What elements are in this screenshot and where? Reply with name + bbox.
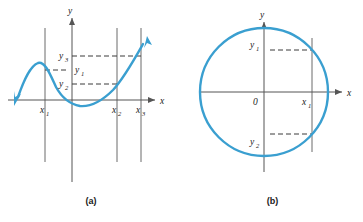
panel-a: y x x 1 x 2 x 3 y 3 y 1 [0,0,182,222]
svg-text:1: 1 [256,45,259,52]
svg-text:y: y [58,51,64,61]
curve-end-arrow-icon [144,36,152,48]
y-tick-label-y1: y 1 [74,65,84,77]
y-tick-label-y3: y 3 [58,51,69,63]
panel-a-x-axis-label: x [159,96,165,106]
svg-text:3: 3 [64,56,69,63]
panel-a-caption: (a) [0,196,182,206]
panel-b-caption: (b) [182,196,363,206]
panel-b: y x 0 x 1 y 1 y 2 (b) [182,0,363,222]
svg-text:y: y [74,65,80,75]
x-axis-arrow-icon [335,89,342,95]
panel-b-y-axis-label: y [259,10,265,20]
svg-text:3: 3 [141,110,146,117]
svg-text:x: x [39,105,45,115]
y-tick-label-y1: y 1 [249,40,259,52]
svg-text:2: 2 [118,110,122,117]
y-tick-label-y2: y 2 [249,137,260,149]
svg-text:2: 2 [65,84,69,91]
panel-b-plot: y x 0 x 1 y 1 y 2 [182,0,363,196]
origin-label: 0 [253,97,258,107]
svg-text:x: x [301,97,307,107]
svg-text:y: y [249,40,255,50]
svg-text:2: 2 [256,142,260,149]
svg-text:x: x [135,105,141,115]
svg-text:y: y [58,79,64,89]
panel-a-plot: y x x 1 x 2 x 3 y 3 y 1 [0,0,182,196]
svg-text:y: y [249,137,255,147]
x-tick-label-x1: x 1 [301,97,311,109]
y-axis-arrow-icon [69,18,75,25]
svg-text:x: x [111,105,117,115]
y-tick-label-y2: y 2 [58,79,69,91]
x-tick-label-x1: x 1 [39,105,49,117]
svg-text:1: 1 [81,70,84,77]
panel-a-y-axis-label: y [67,6,73,16]
svg-text:1: 1 [46,110,49,117]
x-axis-arrow-icon [148,97,155,103]
svg-text:1: 1 [308,102,311,109]
vertical-line-test-figure: y x x 1 x 2 x 3 y 3 y 1 [0,0,363,222]
panel-b-x-axis-label: x [346,88,352,98]
